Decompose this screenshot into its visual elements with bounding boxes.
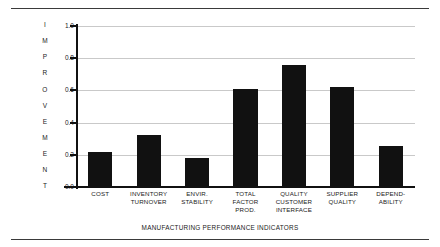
y-axis-title-letter: M [42, 135, 48, 142]
bar[interactable] [330, 87, 354, 187]
x-axis-category-label: ENVIR.STABILITY [173, 190, 221, 206]
bar-slot [137, 26, 161, 187]
y-axis-title-letter: O [42, 87, 47, 94]
x-axis-category-label-line: FACTOR [221, 198, 269, 206]
y-axis-title: IMPROVEMENT [38, 22, 52, 190]
x-axis-category-label-line: ENVIR. [173, 190, 221, 198]
x-axis-category-label: INVENTORYTURNOVER [124, 190, 172, 206]
y-axis-title-letter: R [43, 70, 48, 77]
y-axis-tick-labels: 1.00.80.60.40.20.0 [52, 22, 74, 190]
x-axis-category-label-line: CUSTOMER [270, 198, 318, 206]
x-axis-category-label-line: SUPPLIER [318, 190, 366, 198]
y-axis-title-letter: N [43, 167, 48, 174]
bar[interactable] [282, 65, 306, 187]
bar[interactable] [233, 89, 257, 187]
x-axis-category-label-line: DEPEND- [367, 190, 415, 198]
x-axis-category-label-line: STABILITY [173, 198, 221, 206]
x-axis-category-label-line: INTERFACE [270, 206, 318, 214]
bottom-rule [11, 239, 429, 240]
x-axis-category-label: QUALITYCUSTOMERINTERFACE [270, 190, 318, 215]
x-axis-category-label: SUPPLIERQUALITY [318, 190, 366, 206]
top-rule [11, 8, 429, 9]
x-axis-category-label-line: QUALITY [318, 198, 366, 206]
y-axis-title-letter: M [42, 38, 48, 45]
bar-chart-figure: IMPROVEMENT 1.00.80.60.40.20.0 COSTINVEN… [0, 0, 440, 247]
bar-slot [88, 26, 112, 187]
x-axis-category-label-line: COST [76, 190, 124, 198]
bar-slot [330, 26, 354, 187]
y-axis-title-letter: E [43, 151, 48, 158]
bar-slot [185, 26, 209, 187]
x-axis-category-label-line: ABILITY [367, 198, 415, 206]
x-axis-title: MANUFACTURING PERFORMANCE INDICATORS [0, 224, 440, 231]
bar-slot [282, 26, 306, 187]
bar[interactable] [137, 135, 161, 187]
y-axis-title-letter: I [44, 22, 46, 29]
bar[interactable] [88, 152, 112, 187]
bar[interactable] [185, 158, 209, 187]
x-axis-category-label-line: TOTAL [221, 190, 269, 198]
x-axis-category-label-line: INVENTORY [124, 190, 172, 198]
bar-slot [233, 26, 257, 187]
x-axis-category-label-line: TURNOVER [124, 198, 172, 206]
y-axis-title-letter: T [43, 183, 47, 190]
x-axis-category-label-line: PROD. [221, 206, 269, 214]
x-axis-category-label: TOTALFACTORPROD. [221, 190, 269, 215]
x-axis-category-label: DEPEND-ABILITY [367, 190, 415, 206]
bar-series [76, 26, 415, 187]
bar[interactable] [379, 146, 403, 187]
y-axis-title-letter: V [43, 103, 48, 110]
x-axis-category-label: COST [76, 190, 124, 198]
bar-slot [379, 26, 403, 187]
y-axis-title-letter: P [43, 54, 48, 61]
x-axis-category-label-line: QUALITY [270, 190, 318, 198]
y-axis-title-letter: E [43, 119, 48, 126]
